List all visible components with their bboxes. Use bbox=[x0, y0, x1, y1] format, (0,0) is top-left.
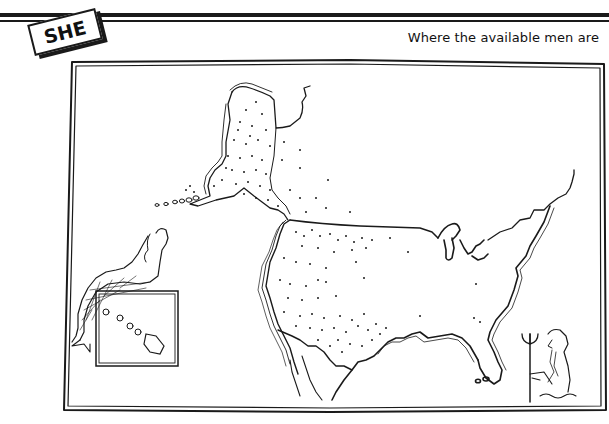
mexico-border bbox=[278, 330, 352, 370]
northeast-border bbox=[488, 170, 574, 240]
west-coast bbox=[258, 220, 298, 374]
hawaii-inset bbox=[96, 291, 178, 366]
dots-alaska bbox=[185, 101, 279, 207]
alaska-outline bbox=[190, 83, 310, 220]
neptune-figure bbox=[522, 330, 576, 403]
great-lakes bbox=[438, 224, 488, 260]
map-frame-border bbox=[64, 60, 606, 412]
dots-canada bbox=[281, 141, 351, 213]
east-coast bbox=[476, 206, 555, 384]
us-canada-border bbox=[290, 220, 438, 238]
gulf-coast bbox=[332, 332, 478, 400]
cartoon-illustration bbox=[0, 0, 609, 424]
